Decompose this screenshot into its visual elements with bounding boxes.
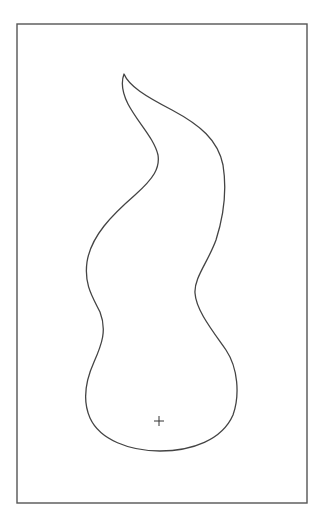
- flame-outline-shape: [86, 74, 237, 451]
- frame-border: [17, 24, 307, 503]
- diagram-canvas: [0, 0, 325, 520]
- centroid-cross-icon: [154, 416, 164, 426]
